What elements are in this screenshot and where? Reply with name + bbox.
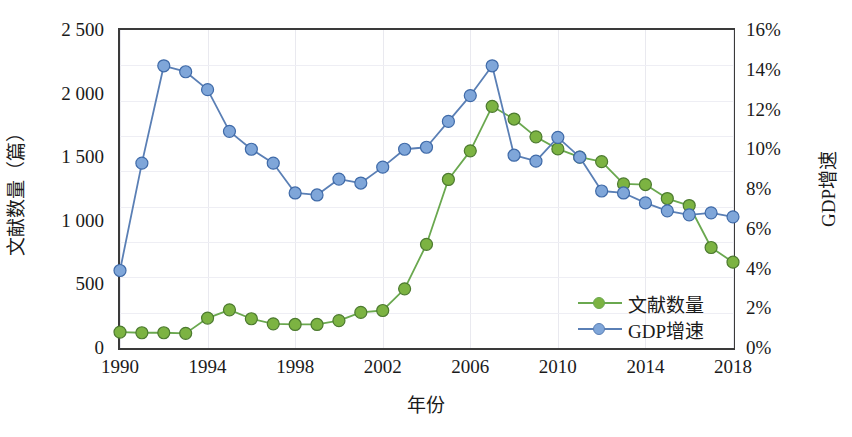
data-point xyxy=(267,318,279,330)
legend-label: 文献数量 xyxy=(628,290,704,317)
y-tick-label-left: 2 500 xyxy=(61,19,104,41)
data-point xyxy=(486,60,498,72)
data-point xyxy=(442,173,454,185)
legend-dot-icon xyxy=(593,297,605,309)
x-tick-label: 1990 xyxy=(101,356,139,378)
data-point xyxy=(355,306,367,318)
y-tick-label-left: 1 000 xyxy=(61,210,104,232)
data-point xyxy=(705,242,717,254)
data-point xyxy=(223,125,235,137)
legend-marker-icon xyxy=(578,296,622,310)
data-point xyxy=(311,189,323,201)
data-point xyxy=(639,197,651,209)
data-point xyxy=(552,131,564,143)
data-point xyxy=(333,173,345,185)
x-tick-label: 1998 xyxy=(276,356,314,378)
data-point xyxy=(223,304,235,316)
data-point xyxy=(136,327,148,339)
data-point xyxy=(486,100,498,112)
y-tick-label-right: 4% xyxy=(746,258,771,280)
y-axis-left-title: 文献数量（篇） xyxy=(1,123,28,256)
data-point xyxy=(355,177,367,189)
legend-label: GDP增速 xyxy=(628,316,704,343)
y-tick-label-right: 10% xyxy=(746,138,781,160)
data-point xyxy=(136,157,148,169)
y-tick-label-right: 14% xyxy=(746,59,781,81)
data-point xyxy=(202,312,214,324)
data-point xyxy=(333,315,345,327)
legend-marker-icon xyxy=(578,322,622,336)
data-point xyxy=(442,115,454,127)
data-point xyxy=(596,185,608,197)
data-point xyxy=(377,304,389,316)
y-tick-label-right: 16% xyxy=(746,19,781,41)
data-point xyxy=(158,60,170,72)
x-tick-label: 2002 xyxy=(364,356,402,378)
y-tick-label-right: 8% xyxy=(746,178,771,200)
data-point xyxy=(289,187,301,199)
data-point xyxy=(508,113,520,125)
data-point xyxy=(727,211,739,223)
data-point xyxy=(245,313,257,325)
gridline-vertical xyxy=(733,30,734,348)
chart-legend: 文献数量GDP增速 xyxy=(578,290,704,342)
data-point xyxy=(114,264,126,276)
data-point xyxy=(683,209,695,221)
data-point xyxy=(596,156,608,168)
data-point xyxy=(464,90,476,102)
legend-dot-icon xyxy=(593,323,605,335)
data-point xyxy=(399,283,411,295)
y-tick-label-left: 500 xyxy=(76,273,105,295)
data-point xyxy=(289,318,301,330)
data-point xyxy=(661,205,673,217)
data-point xyxy=(180,327,192,339)
x-tick-label: 2010 xyxy=(539,356,577,378)
data-point xyxy=(377,161,389,173)
data-point xyxy=(530,155,542,167)
y-tick-label-left: 2 000 xyxy=(61,83,104,105)
data-point xyxy=(530,131,542,143)
data-point xyxy=(180,66,192,78)
legend-item[interactable]: 文献数量 xyxy=(578,290,704,316)
data-point xyxy=(552,143,564,155)
y-axis-right-title: GDP增速 xyxy=(813,151,840,227)
data-point xyxy=(508,149,520,161)
data-point xyxy=(311,318,323,330)
data-point xyxy=(399,143,411,155)
y-tick-label-right: 2% xyxy=(746,297,771,319)
x-tick-label: 2014 xyxy=(626,356,664,378)
data-point xyxy=(421,238,433,250)
x-tick-label: 2006 xyxy=(451,356,489,378)
data-point xyxy=(574,151,586,163)
legend-item[interactable]: GDP增速 xyxy=(578,316,704,342)
y-tick-label-left: 1 500 xyxy=(61,146,104,168)
x-tick-label: 1994 xyxy=(189,356,227,378)
data-point xyxy=(661,193,673,205)
data-point xyxy=(639,179,651,191)
data-point xyxy=(618,187,630,199)
data-point xyxy=(421,141,433,153)
data-point xyxy=(727,256,739,268)
data-point xyxy=(464,145,476,157)
y-tick-label-right: 6% xyxy=(746,218,771,240)
data-point xyxy=(202,84,214,96)
chart-figure: 05001 0001 5002 0002 500 0%2%4%6%8%10%12… xyxy=(0,0,852,437)
data-point xyxy=(267,157,279,169)
data-point xyxy=(114,326,126,338)
data-point xyxy=(245,143,257,155)
data-point xyxy=(705,207,717,219)
data-point xyxy=(158,327,170,339)
x-axis-title: 年份 xyxy=(407,390,445,417)
y-tick-label-right: 12% xyxy=(746,99,781,121)
x-tick-label: 2018 xyxy=(714,356,752,378)
